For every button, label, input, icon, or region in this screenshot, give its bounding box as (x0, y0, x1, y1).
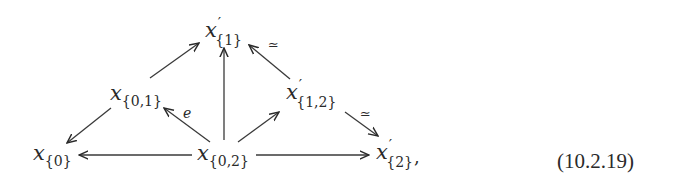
node-subscript: {1} (215, 32, 242, 48)
node-subscript: {0,2} (209, 153, 249, 169)
edge-label-simeq-right: ≃ (360, 107, 371, 120)
node-xp12: x′{1,2} (286, 82, 336, 103)
node-subscript: {2} (386, 154, 413, 170)
node-prime: ′ (299, 76, 302, 94)
node-base: x (33, 141, 45, 165)
node-subscript: {0,1} (122, 93, 162, 109)
node-x02: x{0,2} (197, 143, 249, 164)
trailing-comma: , (414, 146, 420, 167)
arrow-x01-to-x0 (67, 108, 111, 143)
edge-label-e: e (183, 106, 191, 120)
node-prime: ′ (218, 14, 221, 32)
arrow-x02-to-xp12 (238, 112, 279, 142)
node-x0: x{0} (33, 143, 72, 164)
node-subscript: {0} (45, 153, 72, 169)
node-xp1: x′{1} (205, 20, 242, 41)
node-xp2: x′{2}, (376, 142, 420, 163)
arrow-x01-to-xp1 (150, 43, 199, 78)
node-x01: x{0,1} (110, 83, 162, 104)
node-base: x (197, 141, 209, 165)
node-subscript: {1,2} (296, 94, 336, 110)
node-prime: ′ (389, 136, 392, 154)
node-base: x (110, 81, 122, 105)
equation-number: (10.2.19) (557, 151, 634, 172)
edge-label-simeq-top: ≃ (268, 38, 279, 51)
